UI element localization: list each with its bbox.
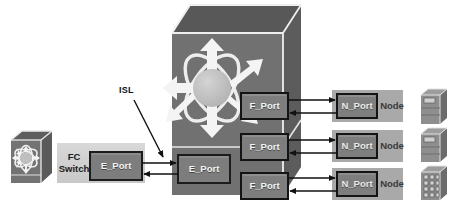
director-e-port-label: E_Port (178, 164, 230, 174)
node-2-label: Node (379, 141, 405, 151)
node-1-n-port-label: N_Port (337, 101, 377, 111)
node-2-n-port-label: N_Port (337, 141, 377, 151)
director-f-port-2-label: F_Port (241, 142, 288, 152)
fc-switch-label-line1: FC (59, 152, 89, 162)
tower-server-icon-1 (421, 89, 447, 124)
director-f-port-1-label: F_Port (241, 101, 288, 111)
fc-switch-label-line2: Switch (56, 164, 92, 174)
fc-switch-e-port-label: E_Port (90, 161, 142, 171)
fc-switch-cube-icon (11, 131, 52, 183)
disk-array-icon (421, 166, 447, 200)
node-1-label: Node (379, 101, 405, 111)
node-3-label: Node (379, 179, 405, 189)
diagram-canvas: ISL FC Switch E_Port E_Port F_Port F_Por… (0, 0, 461, 213)
director-f-port-3-label: F_Port (241, 181, 288, 191)
isl-label: ISL (119, 86, 134, 95)
node-3-n-port-label: N_Port (337, 179, 377, 189)
tower-server-icon-2 (421, 128, 447, 162)
